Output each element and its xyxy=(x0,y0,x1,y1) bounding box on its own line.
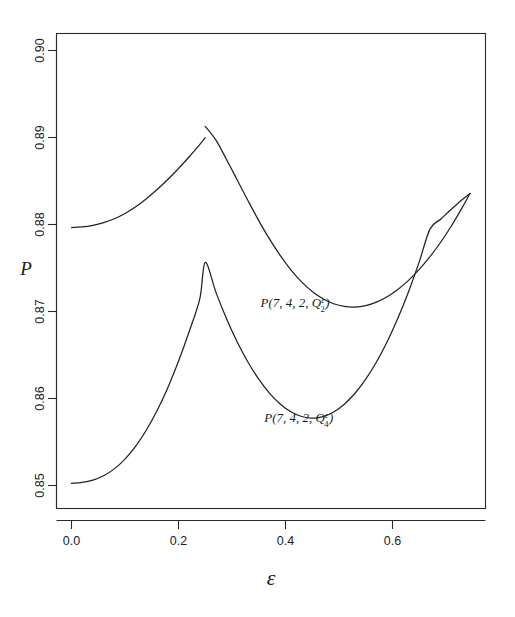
x-tick-label-1: 0.2 xyxy=(170,534,187,548)
y-axis-title: P xyxy=(19,258,32,279)
series-annotation-1: P(7, 4, 2, Qε4) xyxy=(263,410,333,430)
annotation-close-paren-1: ) xyxy=(328,410,333,425)
series-annotation-0: P(7, 4, 2, Qε2) xyxy=(260,295,330,315)
y-tick-label-5: 0.85 xyxy=(33,473,47,497)
plot-canvas: 0.90 0.89 0.88 0.87 0.86 0.85 P 0.0 0.2 … xyxy=(0,0,515,617)
annotation-close-paren-0: ) xyxy=(324,295,329,310)
y-tick-label-1: 0.89 xyxy=(33,125,47,149)
x-tick-labels: 0.0 0.2 0.4 0.6 xyxy=(63,534,401,548)
y-tick-labels: 0.90 0.89 0.88 0.87 0.86 0.85 xyxy=(33,38,47,497)
y-tick-label-4: 0.86 xyxy=(33,386,47,410)
y-tick-label-0: 0.90 xyxy=(33,38,47,62)
y-tick-group xyxy=(48,51,57,486)
x-tick-group xyxy=(72,521,393,530)
plot-frame xyxy=(57,34,486,509)
annotation-base-0: P(7, 4, 2, Q xyxy=(260,295,322,310)
annotation-subscript-0: 2 xyxy=(321,304,325,314)
x-tick-label-0: 0.0 xyxy=(63,534,80,548)
series-annotation-layer: P(7, 4, 2, Qε2)P(7, 4, 2, Qε4) xyxy=(260,295,334,429)
series-curve-1 xyxy=(72,193,471,483)
x-tick-label-2: 0.4 xyxy=(277,534,294,548)
y-tick-label-2: 0.88 xyxy=(33,212,47,236)
chart-figure: 0.90 0.89 0.88 0.87 0.86 0.85 P 0.0 0.2 … xyxy=(0,0,515,617)
x-axis-title: ε xyxy=(267,565,276,590)
annotation-base-1: P(7, 4, 2, Q xyxy=(263,410,325,425)
y-tick-label-3: 0.87 xyxy=(33,299,47,323)
x-tick-label-3: 0.6 xyxy=(384,534,401,548)
series-curve-0 xyxy=(72,126,471,307)
